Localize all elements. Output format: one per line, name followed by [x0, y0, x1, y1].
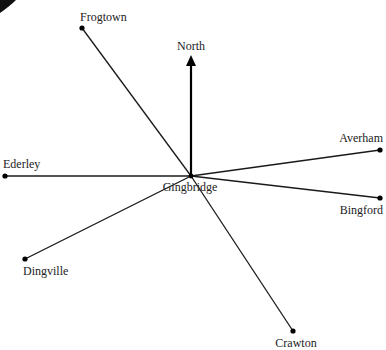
- town-dot-crawton: [290, 328, 295, 333]
- town-dot-averham: [377, 147, 382, 152]
- route-crawton: [191, 176, 293, 331]
- label-north: North: [177, 39, 205, 53]
- label-gingbridge: Gingbridge: [163, 180, 218, 194]
- town-dot-bingford: [377, 195, 382, 200]
- route-bingford: [191, 176, 380, 198]
- route-averham: [191, 150, 380, 176]
- label-ederley: Ederley: [3, 157, 40, 171]
- route-frogtown: [82, 28, 191, 176]
- corner-fragment-icon: [0, 0, 16, 13]
- label-crawton: Crawton: [275, 336, 316, 350]
- bearing-diagram: Frogtown North Ederley Averham Bingford …: [0, 0, 386, 350]
- town-dot-frogtown: [79, 25, 84, 30]
- center-dot-gingbridge: [189, 174, 194, 179]
- town-dot-dingville: [22, 256, 27, 261]
- label-frogtown: Frogtown: [80, 10, 127, 24]
- town-dot-ederley: [2, 173, 7, 178]
- label-bingford: Bingford: [340, 203, 383, 217]
- north-arrow-icon: [186, 55, 196, 66]
- label-dingville: Dingville: [23, 264, 68, 278]
- label-averham: Averham: [339, 131, 383, 145]
